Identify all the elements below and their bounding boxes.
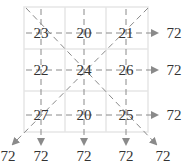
anti-diagonal-sum: 72 [1, 148, 16, 164]
cell-r2c3: 26 [119, 62, 135, 78]
cell-r3c2: 20 [77, 107, 92, 123]
column-1-sum: 72 [34, 148, 49, 164]
cell-r3c3: 25 [119, 107, 134, 123]
column-2-sum: 72 [77, 148, 92, 164]
row-3-sum: 72 [167, 107, 182, 123]
cell-r3c1: 27 [34, 107, 50, 123]
row-1-sum: 72 [167, 25, 182, 41]
column-3-sum: 72 [119, 148, 134, 164]
magic-square-diagram: 23 20 21 22 24 26 27 20 25 72 72 72 72 7… [0, 0, 187, 168]
cell-r2c1: 22 [34, 62, 49, 78]
sum-labels: 72 72 72 72 72 72 72 72 [1, 25, 182, 164]
row-2-sum: 72 [167, 62, 182, 78]
cell-r1c1: 23 [34, 25, 49, 41]
cell-r1c3: 21 [119, 25, 134, 41]
cell-r2c2: 24 [77, 62, 93, 78]
cell-r1c2: 20 [77, 25, 92, 41]
main-diagonal-sum: 72 [156, 148, 171, 164]
